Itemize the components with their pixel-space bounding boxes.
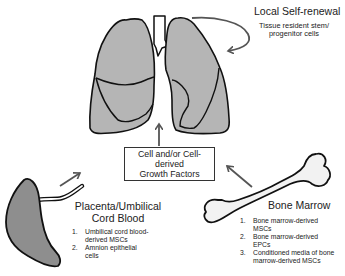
- placenta-source-list: 1.Umbilical cord blood-derived MSCs 2.Am…: [72, 228, 172, 260]
- lungs-icon: [90, 16, 229, 134]
- item-text: Conditioned media of bone: [253, 249, 334, 256]
- item-number: 1.: [72, 228, 78, 236]
- bone-marrow-title: Bone Marrow: [268, 200, 330, 212]
- list-item: 1.Bone marrow-derivedMSCs: [240, 217, 345, 232]
- bone-icon: [204, 154, 330, 223]
- placenta-title-line-1: Placenta/Umbilical: [70, 201, 166, 213]
- box-line-2: Growth Factors: [125, 169, 214, 179]
- item-text: Bone marrow-derived: [253, 233, 318, 240]
- item-text: marrow-derived MSCs: [253, 257, 321, 264]
- bone-marrow-source-list: 1.Bone marrow-derivedMSCs 2.Bone marrow-…: [240, 217, 345, 266]
- item-text: Amnion epithelial: [85, 244, 137, 251]
- item-text: derived MSCs: [85, 236, 128, 243]
- item-text: EPCs: [253, 241, 270, 248]
- left-lung: [165, 18, 229, 134]
- list-item: 2.Amnion epithelialcells: [72, 244, 172, 259]
- placenta-title-line-2: Cord Blood: [70, 213, 166, 225]
- list-item: 1.Umbilical cord blood-derived MSCs: [72, 228, 172, 243]
- bone-to-box-arrow: [227, 166, 252, 187]
- growth-factors-box: Cell and/or Cell-derived Growth Factors: [124, 147, 215, 181]
- item-text: MSCs: [253, 225, 272, 232]
- local-self-renewal-subtitle: Tissue resident stem/ progenitor cells: [244, 22, 344, 39]
- item-text: Bone marrow-derived: [253, 217, 318, 224]
- item-text: cells: [85, 252, 99, 259]
- item-number: 3.: [240, 249, 246, 257]
- item-number: 1.: [240, 217, 246, 225]
- bone-shape: [204, 154, 330, 223]
- item-text: Umbilical cord blood-: [85, 228, 148, 235]
- local-self-renewal-title: Local Self-renewal: [254, 6, 340, 18]
- right-lung: [90, 19, 155, 134]
- item-number: 2.: [72, 244, 78, 252]
- item-number: 2.: [240, 233, 246, 241]
- placenta-title: Placenta/Umbilical Cord Blood: [70, 201, 166, 225]
- box-line-1: Cell and/or Cell-derived: [125, 149, 214, 169]
- list-item: 2.Bone marrow-derivedEPCs: [240, 233, 345, 248]
- placenta-body: [6, 179, 60, 266]
- subtitle-line-2: progenitor cells: [244, 30, 344, 38]
- placenta-to-box-arrow: [60, 173, 80, 186]
- list-item: 3.Conditioned media of bonemarrow-derive…: [240, 249, 345, 264]
